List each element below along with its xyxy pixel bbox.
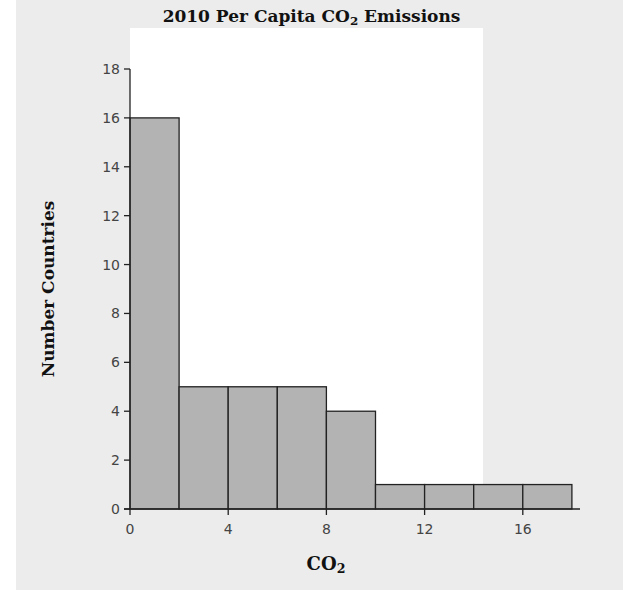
histogram-bar xyxy=(474,485,523,509)
y-tick-label: 8 xyxy=(111,305,120,321)
y-tick-label: 16 xyxy=(102,110,120,126)
x-tick-label: 12 xyxy=(416,521,434,537)
y-tick-label: 0 xyxy=(111,501,120,517)
histogram-bar xyxy=(425,485,474,509)
x-tick-label: 4 xyxy=(224,521,233,537)
y-tick-label: 12 xyxy=(102,208,120,224)
y-tick-label: 2 xyxy=(111,452,120,468)
histogram-bar xyxy=(130,118,179,509)
histogram-bar xyxy=(179,387,228,509)
histogram-bar xyxy=(376,485,425,509)
x-tick-label: 8 xyxy=(322,521,331,537)
histogram: 0246810121416180481216 xyxy=(0,0,623,604)
x-tick-label: 0 xyxy=(126,521,135,537)
bars-group xyxy=(130,118,572,509)
y-tick-label: 4 xyxy=(111,403,120,419)
y-tick-label: 6 xyxy=(111,354,120,370)
y-tick-label: 10 xyxy=(102,257,120,273)
x-tick-label: 16 xyxy=(514,521,532,537)
histogram-bar xyxy=(277,387,326,509)
histogram-bar xyxy=(523,485,572,509)
histogram-bar xyxy=(228,387,277,509)
y-tick-label: 14 xyxy=(102,159,120,175)
y-tick-label: 18 xyxy=(102,61,120,77)
histogram-bar xyxy=(326,411,375,509)
